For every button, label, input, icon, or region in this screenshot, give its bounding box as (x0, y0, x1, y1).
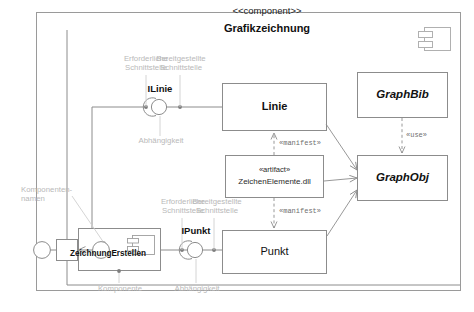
interface-ipunkt-label: IPunkt (164, 226, 228, 237)
interface-ilinie-label: ILinie (128, 84, 192, 95)
zeichnung-erstellen-label: ZeichnungErstellen (69, 249, 147, 258)
graphbib-label: GraphBib (357, 88, 448, 101)
annotation-dependency-top: Abhängigkeit (125, 137, 197, 146)
page-title: Grafikzeichnung (187, 22, 347, 35)
diagram-connectors (0, 0, 474, 312)
graphobj-label: GraphObj (357, 171, 448, 184)
annotation-component-name: Komponenten- namen (21, 186, 109, 204)
component-diagram: <<component>> Grafikzeichnung Erforderli… (0, 0, 474, 312)
left-outer-ball (34, 242, 51, 259)
linie-label: Linie (222, 100, 327, 113)
artifact-to-graphobj (324, 178, 357, 181)
annotation-component-bottom: Komponente (84, 285, 156, 294)
manifest-label-punkt: «manifest» (279, 207, 321, 215)
component-bottom-dot (117, 269, 121, 273)
linie-to-graphobj (326, 124, 357, 170)
artifact-name: ZeichenElemente.dll (225, 177, 324, 186)
component-stereotype: <<component>> (187, 6, 347, 17)
ilinie-required-path (92, 107, 146, 246)
component-icon-header (419, 28, 451, 51)
annotation-dependency-bottom: Abhängigkeit (161, 285, 233, 294)
annotation-provided-interface-bottom: Bereitgestellte Schnittstelle (178, 198, 256, 216)
punkt-label: Punkt (222, 245, 327, 258)
artifact-stereotype: «artifact» (225, 166, 324, 175)
use-label: «use» (406, 131, 427, 139)
ipunkt-ball (187, 242, 202, 257)
ilinie-ball (151, 99, 166, 114)
annotation-provided-interface-top: Bereitgestellte Schnittstelle (142, 55, 220, 73)
manifest-label-linie: «manifest» (279, 139, 321, 147)
punkt-to-graphobj (327, 190, 357, 236)
